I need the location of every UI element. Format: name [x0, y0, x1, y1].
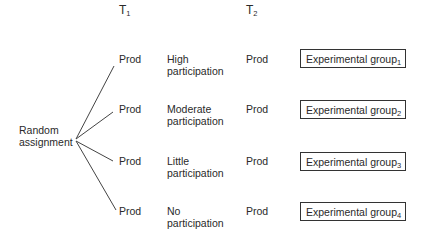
- experimental-group-3-box: Experimental group3: [300, 152, 406, 171]
- pre-test-1: Prod: [119, 53, 141, 65]
- condition-3-line2: participation: [167, 167, 224, 179]
- root-label-line2: assignment: [19, 136, 73, 148]
- pre-test-2: Prod: [119, 103, 141, 115]
- condition-3: Little participation: [167, 155, 224, 179]
- condition-4: No participation: [167, 205, 224, 229]
- experimental-group-2-box: Experimental group2: [300, 100, 406, 119]
- condition-4-line2: participation: [167, 217, 224, 229]
- pre-test-4: Prod: [119, 205, 141, 217]
- group-2-label: Experimental group: [306, 104, 397, 116]
- header-t1-sub: 1: [126, 9, 130, 18]
- branch-line-1: [76, 66, 114, 139]
- condition-2-line1: Moderate: [167, 103, 224, 115]
- post-test-1: Prod: [246, 53, 268, 65]
- post-test-3: Prod: [246, 155, 268, 167]
- condition-3-line1: Little: [167, 155, 224, 167]
- header-t2: T2: [246, 4, 258, 16]
- branch-line-2: [76, 112, 113, 139]
- root-label: Random assignment: [19, 124, 73, 148]
- condition-4-line1: No: [167, 205, 224, 217]
- condition-2-line2: participation: [167, 115, 224, 127]
- group-4-label: Experimental group: [306, 206, 397, 218]
- post-test-4: Prod: [246, 205, 268, 217]
- header-t2-sub: 2: [253, 9, 257, 18]
- group-1-label: Experimental group: [306, 53, 397, 65]
- group-3-label: Experimental group: [306, 156, 397, 168]
- group-3-sub: 3: [397, 161, 401, 170]
- group-4-sub: 4: [397, 211, 401, 220]
- post-test-2: Prod: [246, 103, 268, 115]
- experimental-group-4-box: Experimental group4: [300, 202, 406, 221]
- condition-1-line1: High: [167, 53, 224, 65]
- group-1-sub: 1: [397, 58, 401, 67]
- condition-1-line2: participation: [167, 65, 224, 77]
- condition-2: Moderate participation: [167, 103, 224, 127]
- condition-1: High participation: [167, 53, 224, 77]
- group-2-sub: 2: [397, 109, 401, 118]
- root-label-line1: Random: [19, 124, 73, 136]
- experimental-group-1-box: Experimental group1: [300, 49, 406, 68]
- header-t1: T1: [119, 4, 131, 16]
- pre-test-3: Prod: [119, 155, 141, 167]
